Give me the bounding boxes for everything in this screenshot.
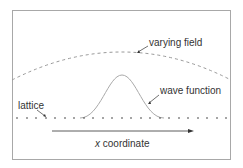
- arrowhead-icon: [188, 129, 194, 133]
- label-x-coordinate: x coordinate: [95, 139, 149, 149]
- wave-function-leader: [149, 95, 159, 103]
- lattice-dots: [16, 117, 227, 119]
- varying-field-curve: [12, 52, 231, 80]
- label-wave-function: wave function: [160, 86, 221, 96]
- x-coordinate-text: coordinate: [100, 138, 149, 149]
- wave-function-curve: [80, 75, 164, 118]
- label-lattice: lattice: [18, 101, 44, 111]
- label-varying-field: varying field: [149, 38, 202, 48]
- varying-field-leader: [138, 46, 148, 52]
